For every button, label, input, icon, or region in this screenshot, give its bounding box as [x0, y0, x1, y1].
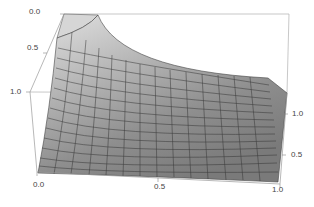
z-tick-label: 1.0	[292, 110, 303, 118]
y-tick-label: 1.0	[10, 88, 21, 96]
y-tick-label: 0.5	[27, 44, 38, 52]
x-tick-label: 0.0	[33, 181, 44, 189]
x-tick-label: 1.0	[272, 186, 283, 194]
x-tick-label: 0.5	[154, 183, 165, 191]
surface	[38, 14, 287, 182]
z-tick-label: 0.5	[291, 151, 302, 159]
y-tick-label: 0.0	[29, 8, 40, 16]
surface-plot[interactable]	[0, 0, 314, 207]
